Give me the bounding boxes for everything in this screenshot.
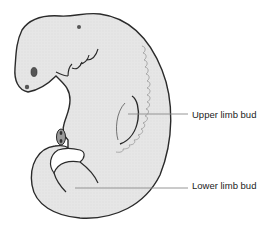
otic-pit-icon [77,25,81,29]
embryo-body [15,14,171,219]
label-upper-limb-bud: Upper limb bud [192,110,256,120]
cord-vessel-icon [60,131,63,135]
label-lower-limb-bud: Lower limb bud [192,181,256,191]
eye-icon [31,68,37,77]
cord-vessel-icon [60,139,63,143]
nasal-pit-icon [25,85,29,89]
